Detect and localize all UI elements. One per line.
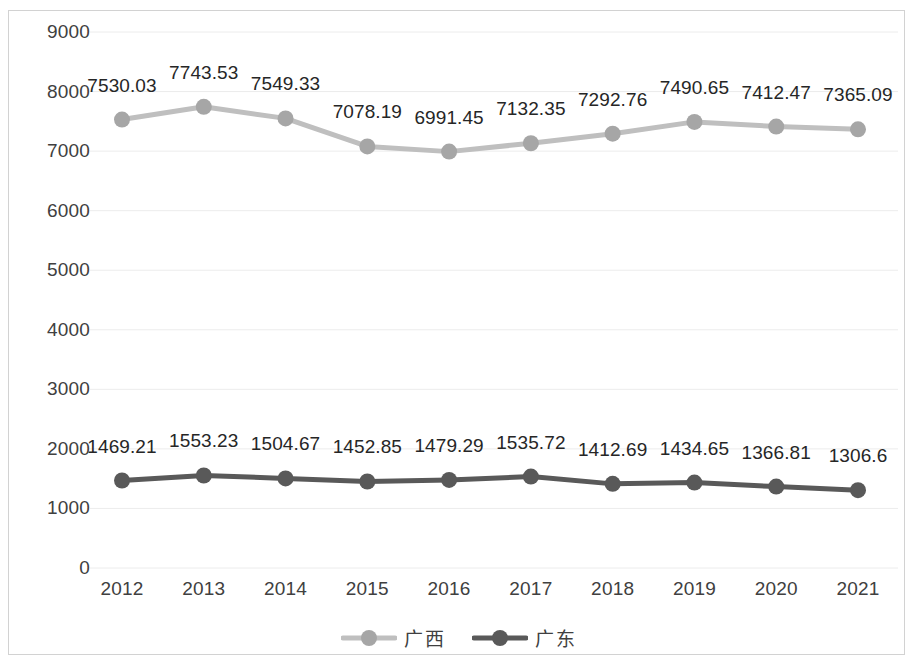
data-labels-layer: 7530.037743.537549.337078.196991.457132.… [0,0,918,665]
line-chart: 0100020003000400050006000700080009000 20… [0,0,918,665]
data-point-label: 7365.09 [798,84,918,106]
legend-marker-icon [341,629,397,647]
legend-label: 广东 [535,624,577,651]
data-point-label: 7549.33 [226,73,346,95]
legend-item[interactable]: 广西 [341,624,446,651]
legend-marker-icon [472,629,528,647]
chart-legend: 广西广东 [0,624,918,651]
legend-item[interactable]: 广东 [472,624,577,651]
legend-label: 广西 [404,624,446,651]
data-point-label: 1306.6 [798,445,918,467]
